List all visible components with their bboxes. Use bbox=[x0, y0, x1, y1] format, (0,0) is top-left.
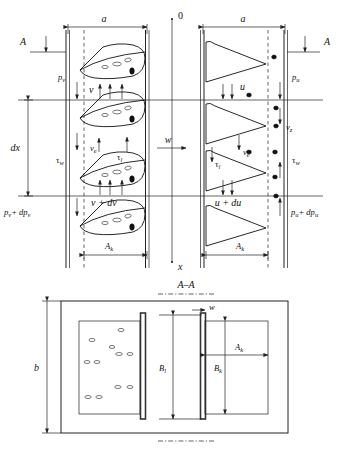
figure-container: a a 0 x w A A bbox=[0, 0, 341, 451]
lower-bl-label: Bl bbox=[159, 363, 166, 374]
technical-diagram: a a 0 x w A A bbox=[0, 0, 341, 451]
right-velocity-bottom-label: u + du bbox=[215, 197, 242, 208]
lower-left-bubbles bbox=[84, 328, 133, 398]
left-pressure-bottom-label: pv+ dpv bbox=[3, 207, 31, 218]
dimension-dx-label: dx bbox=[11, 142, 21, 153]
upper-diagram: a a 0 x w A A bbox=[3, 10, 331, 272]
left-flow-arrows-v-top: v bbox=[89, 84, 122, 99]
dimension-a-right-label: a bbox=[241, 13, 246, 24]
lower-w-label: w bbox=[209, 302, 215, 312]
dimension-dx: dx bbox=[11, 100, 33, 196]
left-area-label: Ak bbox=[104, 241, 113, 252]
right-area-dimension: Ak bbox=[206, 241, 268, 259]
left-taul-label: τl bbox=[117, 152, 122, 163]
left-flow-arrows-v-bottom: v + dv bbox=[91, 180, 122, 208]
lower-bk-dimension: Bk bbox=[214, 321, 225, 414]
right-pressure-top-label: pu bbox=[291, 72, 300, 83]
left-profile-blob-2 bbox=[80, 92, 145, 127]
left-area-dimension: Ak bbox=[84, 241, 147, 259]
left-ve-label: ve bbox=[90, 143, 97, 154]
section-label-group: A–A bbox=[158, 279, 215, 294]
axis-x-label: x bbox=[177, 261, 183, 272]
axis-origin-label: 0 bbox=[178, 10, 183, 21]
right-tau-wall-label: τw bbox=[292, 155, 300, 166]
right-profile-triangle-1 bbox=[206, 41, 266, 82]
right-profile-triangle-2 bbox=[206, 103, 266, 144]
left-velocity-bottom-label: v + dv bbox=[91, 197, 117, 208]
lower-diagram: b w Bl Ak Bk bbox=[34, 301, 288, 441]
lower-b-label: b bbox=[34, 362, 39, 373]
section-aa-label: A–A bbox=[176, 279, 195, 290]
right-profile-triangle-3 bbox=[206, 150, 266, 191]
w-label: w bbox=[165, 134, 172, 145]
left-ve-tau-group: ve τl bbox=[90, 137, 127, 163]
left-profile-blob-3 bbox=[80, 152, 145, 187]
central-axis: 0 x w bbox=[157, 10, 186, 272]
lower-ak-label: Ak bbox=[234, 342, 243, 353]
section-marker-left: A bbox=[19, 36, 66, 52]
dimension-a-right: a bbox=[203, 13, 285, 34]
lower-ak-dimension: Ak bbox=[205, 342, 268, 355]
section-marker-right: A bbox=[287, 36, 331, 52]
dimension-a-left-label: a bbox=[102, 13, 107, 24]
dimension-a-left: a bbox=[68, 13, 147, 34]
lower-w-dimension: w bbox=[192, 302, 215, 312]
right-area-label: Ak bbox=[235, 241, 244, 252]
right-profile-triangle-4 bbox=[206, 205, 266, 246]
left-velocity-top-label: v bbox=[89, 84, 94, 95]
right-vz-label: vz bbox=[286, 122, 293, 133]
right-taul-label: τl bbox=[215, 159, 220, 170]
lower-left-region bbox=[79, 321, 140, 414]
section-marker-left-label: A bbox=[19, 36, 27, 47]
lower-bk-label: Bk bbox=[214, 363, 222, 374]
left-tau-wall-label: τw bbox=[56, 155, 64, 166]
right-velocity-top-label: u bbox=[240, 81, 245, 92]
left-profile-blob-1 bbox=[80, 44, 145, 79]
right-pressure-bottom-label: pu+ dpu bbox=[290, 207, 319, 218]
section-marker-right-label: A bbox=[323, 36, 331, 47]
right-entrained-droplets bbox=[247, 55, 279, 198]
lower-bl-dimension: Bl bbox=[159, 315, 202, 419]
lower-dimension-b: b bbox=[34, 301, 61, 433]
right-flow-arrows-u-top: u bbox=[223, 81, 245, 99]
lower-left-plate bbox=[141, 313, 146, 419]
left-pressure-top-label: pv bbox=[57, 72, 65, 83]
right-velocity-profiles bbox=[206, 41, 266, 246]
